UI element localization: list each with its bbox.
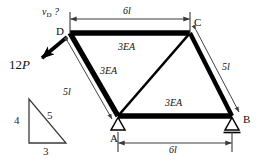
load-arrow-12P: [42, 37, 67, 58]
dimension-label-right-diagonal: 5l: [222, 62, 230, 72]
dimension-left-5l: [68, 42, 112, 119]
dimension-label-left-diagonal: 5l: [63, 87, 71, 97]
load-symbol: P: [22, 57, 30, 72]
member-label-DC: 3EA: [118, 42, 135, 52]
node-label-B: B: [243, 114, 250, 125]
pin-support-triangle: [111, 118, 125, 131]
member-label-DA: 3EA: [100, 66, 117, 76]
dimension-label-top: 6l: [123, 6, 131, 16]
truss-members: [70, 33, 232, 116]
deflection-suffix: ?: [52, 6, 60, 17]
node-label-A: A: [110, 133, 118, 144]
truss-diagram: [0, 0, 275, 164]
dimension-label-bottom: 6l: [169, 145, 177, 155]
member-CB: [190, 33, 232, 116]
slope-label-horizontal: 3: [43, 146, 49, 157]
member-label-AB: 3EA: [165, 98, 182, 108]
deflection-subscript: D: [46, 11, 51, 19]
node-label-D: D: [56, 26, 64, 37]
support-A: [111, 118, 125, 131]
load-magnitude: 12: [9, 57, 22, 72]
slope-triangle: [29, 99, 66, 143]
node-label-C: C: [194, 17, 201, 28]
dimension-right-5l: [196, 30, 239, 112]
support-B: [224, 118, 241, 133]
load-label-12P: 12P: [9, 58, 30, 71]
roller-support-triangle: [225, 118, 239, 131]
slope-label-hypotenuse: 5: [47, 110, 53, 121]
slope-label-vertical: 4: [14, 115, 20, 126]
deflection-query-label: vD ?: [42, 7, 59, 17]
